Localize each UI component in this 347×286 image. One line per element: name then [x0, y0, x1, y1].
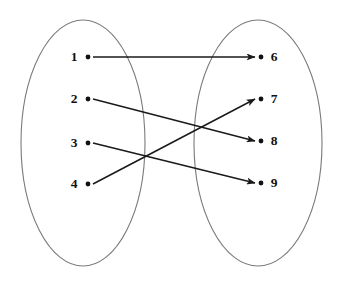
diagram-svg	[0, 0, 347, 286]
node-dot-8	[259, 139, 264, 144]
edge-3-to-9	[93, 143, 255, 183]
node-dot-3	[86, 141, 91, 146]
node-label-1: 1	[71, 50, 78, 64]
left-nodes-group	[86, 55, 91, 187]
node-label-9: 9	[271, 176, 278, 190]
node-dot-1	[86, 55, 91, 60]
right-nodes-group	[259, 55, 264, 186]
node-label-6: 6	[271, 50, 278, 64]
node-dot-4	[86, 182, 91, 187]
edge-2-to-8	[93, 99, 255, 141]
node-label-2: 2	[71, 92, 78, 106]
node-dot-2	[86, 97, 91, 102]
node-label-4: 4	[71, 177, 78, 191]
node-dot-7	[259, 97, 264, 102]
node-label-7: 7	[271, 92, 278, 106]
edges-group	[93, 57, 255, 184]
mapping-diagram: 1 2 3 4 6 7 8 9	[0, 0, 347, 286]
node-label-3: 3	[71, 136, 78, 150]
edge-4-to-7	[93, 99, 255, 184]
node-dot-6	[259, 55, 264, 60]
node-label-8: 8	[271, 134, 278, 148]
node-dot-9	[259, 181, 264, 186]
